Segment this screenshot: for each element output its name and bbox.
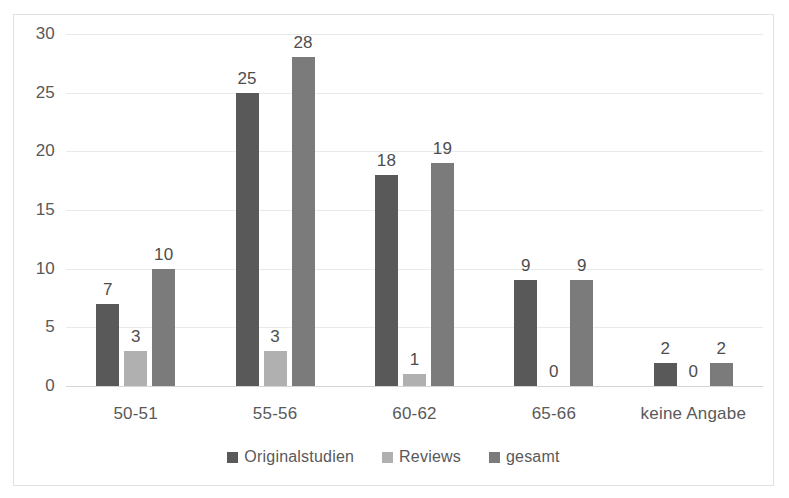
y-tick-label-25: 25 [36,83,55,103]
legend-item-reviews[interactable]: Reviews [382,448,461,466]
bar-value-label: 0 [689,362,699,382]
bar-slot-originalstudien: 18 [375,34,398,386]
bar-value-label: 1 [410,350,420,370]
bar-value-label: 19 [433,139,452,159]
bar[interactable] [152,269,175,386]
bar-slot-gesamt: 28 [292,34,315,386]
legend-label: gesamt [506,448,560,466]
legend-item-gesamt[interactable]: gesamt [489,448,560,466]
bar-slot-originalstudien: 9 [514,34,537,386]
bar-value-label: 2 [717,339,727,359]
bar-groups: 731050-512532855-561811960-6290965-66202… [66,34,763,386]
chart-legend: OriginalstudienReviewsgesamt [14,448,773,466]
bar-value-label: 2 [661,339,671,359]
bar[interactable] [124,351,147,386]
bar[interactable] [431,163,454,386]
legend-label: Reviews [399,448,461,466]
plot-area: 051015202530 731050-512532855-561811960-… [66,34,763,386]
legend-swatch-icon [489,452,500,463]
legend-swatch-icon [227,452,238,463]
bar-slot-reviews: 0 [542,34,565,386]
bar-value-label: 25 [237,69,256,89]
bar-value-label: 18 [377,151,396,171]
bar[interactable] [514,280,537,386]
legend-label: Originalstudien [244,448,354,466]
x-axis-category-label: 55-56 [205,404,344,424]
bars: 25328 [205,34,344,386]
bars: 202 [624,34,763,386]
y-tick-label-5: 5 [45,317,55,337]
x-axis-category-label: 60-62 [345,404,484,424]
bar-group-4: 202keine Angabe [624,34,763,386]
bar-group-0: 731050-51 [66,34,205,386]
bars: 18119 [345,34,484,386]
bar[interactable] [96,304,119,386]
bar-slot-reviews: 3 [124,34,147,386]
bar-group-1: 2532855-56 [205,34,344,386]
bar-slot-reviews: 0 [682,34,705,386]
y-tick-label-15: 15 [36,200,55,220]
bar-value-label: 3 [131,327,141,347]
bar-value-label: 3 [270,327,280,347]
bar-group-2: 1811960-62 [345,34,484,386]
bar-slot-gesamt: 2 [710,34,733,386]
bar-value-label: 9 [577,256,587,276]
x-axis-category-label: 50-51 [66,404,205,424]
bar[interactable] [403,374,426,386]
bars: 7310 [66,34,205,386]
bar-value-label: 7 [103,280,113,300]
bars: 909 [484,34,623,386]
bar[interactable] [570,280,593,386]
y-tick-label-0: 0 [45,376,55,396]
bar[interactable] [654,363,677,386]
y-tick-label-20: 20 [36,141,55,161]
x-axis-category-label: keine Angabe [624,404,763,424]
bar[interactable] [292,57,315,386]
legend-swatch-icon [382,452,393,463]
bar[interactable] [264,351,287,386]
bar-slot-reviews: 1 [403,34,426,386]
gridline-0 [66,386,763,387]
bar-slot-originalstudien: 25 [236,34,259,386]
bar-value-label: 28 [293,33,312,53]
bar[interactable] [375,175,398,386]
bar[interactable] [710,363,733,386]
bar-slot-gesamt: 10 [152,34,175,386]
bar-slot-gesamt: 9 [570,34,593,386]
x-axis-category-label: 65-66 [484,404,623,424]
bar-group-3: 90965-66 [484,34,623,386]
y-tick-label-10: 10 [36,259,55,279]
bar-value-label: 9 [521,256,531,276]
y-tick-label-30: 30 [36,24,55,44]
bar-value-label: 0 [549,362,559,382]
bar-value-label: 10 [154,245,173,265]
chart-frame: 051015202530 731050-512532855-561811960-… [13,14,774,486]
bar-slot-reviews: 3 [264,34,287,386]
bar[interactable] [236,93,259,386]
bar-slot-originalstudien: 2 [654,34,677,386]
bar-slot-gesamt: 19 [431,34,454,386]
bar-slot-originalstudien: 7 [96,34,119,386]
legend-item-originalstudien[interactable]: Originalstudien [227,448,354,466]
